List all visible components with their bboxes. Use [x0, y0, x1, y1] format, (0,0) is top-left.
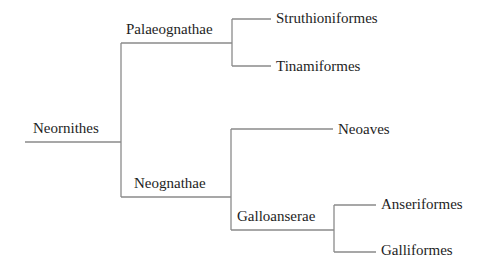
node-label-neognathae: Neognathae — [134, 176, 206, 191]
leaf-label-tinamiformes: Tinamiformes — [276, 59, 360, 74]
tree-branches — [0, 0, 496, 275]
phylogenetic-tree: Neornithes Palaeognathae Struthioniforme… — [0, 0, 496, 275]
leaf-label-neoaves: Neoaves — [338, 122, 390, 137]
node-label-galloanserae: Galloanserae — [237, 209, 315, 224]
leaf-label-galliformes: Galliformes — [381, 243, 453, 258]
node-label-palaeognathae: Palaeognathae — [126, 22, 213, 37]
leaf-label-anseriformes: Anseriformes — [381, 197, 463, 212]
node-label-neornithes: Neornithes — [33, 121, 99, 136]
leaf-label-struthioniformes: Struthioniformes — [276, 11, 378, 26]
